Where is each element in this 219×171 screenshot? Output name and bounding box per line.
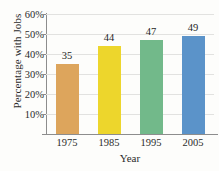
bar-value-label: 49 bbox=[188, 22, 199, 33]
y-axis-tick-labels: 10%20%30%40%50%60% bbox=[11, 0, 44, 171]
bar-value-label: 35 bbox=[62, 50, 73, 61]
plot-area: 35444749 bbox=[46, 14, 214, 134]
x-axis-tick-label: 1985 bbox=[86, 137, 132, 148]
gridline bbox=[46, 34, 214, 35]
bar-chart-figure: Percentage with Jobs 10%20%30%40%50%60% … bbox=[0, 0, 219, 171]
bar: 35 bbox=[56, 64, 79, 134]
y-axis-tick-label: 30% bbox=[14, 69, 44, 80]
gridline bbox=[46, 14, 214, 15]
x-axis-title: Year bbox=[46, 152, 214, 164]
y-axis-tick-mark bbox=[41, 114, 46, 115]
x-axis-tick-label: 2005 bbox=[170, 137, 216, 148]
x-axis-line bbox=[42, 134, 218, 135]
x-axis-tick-label: 1975 bbox=[44, 137, 90, 148]
y-axis-tick-label: 20% bbox=[14, 89, 44, 100]
y-axis-tick-mark bbox=[41, 34, 46, 35]
y-axis-tick-mark bbox=[41, 14, 46, 15]
bar-value-label: 47 bbox=[146, 26, 157, 37]
bar: 44 bbox=[98, 46, 121, 134]
y-axis-tick-label: 50% bbox=[14, 29, 44, 40]
y-axis-tick-label: 60% bbox=[14, 9, 44, 20]
bar: 49 bbox=[182, 36, 205, 134]
y-axis-tick-mark bbox=[41, 74, 46, 75]
y-axis-tick-label: 10% bbox=[14, 109, 44, 120]
y-axis-tick-label: 40% bbox=[14, 49, 44, 60]
y-axis-tick-mark bbox=[41, 94, 46, 95]
bar-value-label: 44 bbox=[104, 32, 115, 43]
y-axis-tick-mark bbox=[41, 54, 46, 55]
x-axis-tick-label: 1995 bbox=[128, 137, 174, 148]
bar: 47 bbox=[140, 40, 163, 134]
